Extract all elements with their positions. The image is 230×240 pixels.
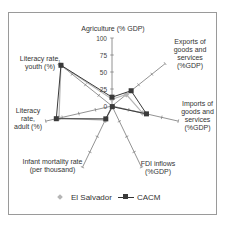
square-line-marker-icon [118, 197, 134, 198]
axis-label: Imports of goods and services (%GDP) [175, 100, 220, 132]
axis-label: Literacy rate, youth (%) [15, 55, 65, 71]
diamond-marker-icon [57, 194, 63, 200]
square-marker-icon [129, 88, 134, 93]
legend-label-cacm: CACM [137, 193, 161, 202]
legend-label-el-salvador: El Salvador [71, 193, 112, 202]
axis-tick [161, 116, 162, 120]
axis-label: FDI inflows (%GDP) [137, 160, 179, 176]
axis-label: Literacy rate, adult (%) [11, 107, 45, 131]
square-marker-icon [144, 111, 149, 116]
square-marker-icon [54, 116, 59, 121]
axis-label: Infant mortality rate (per thousand) [15, 158, 90, 174]
legend: El Salvador CACM [58, 192, 166, 202]
axis-label: Agriculture (% GDP) [72, 25, 154, 33]
legend-item-el-salvador: El Salvador [58, 193, 112, 202]
square-marker-icon [110, 104, 115, 109]
tick-0: 0 [93, 103, 107, 110]
tick-25: 25 [93, 86, 107, 93]
axis-label: Exports of goods and services (%GDP) [165, 38, 215, 70]
tick-100: 100 [93, 35, 107, 42]
legend-item-cacm: CACM [118, 193, 161, 202]
square-marker-icon [110, 95, 115, 100]
tick-75: 75 [93, 52, 107, 59]
axis-tick [78, 112, 79, 116]
axis-tick [45, 119, 46, 123]
square-marker-icon [103, 116, 108, 121]
tick-50: 50 [93, 69, 107, 76]
